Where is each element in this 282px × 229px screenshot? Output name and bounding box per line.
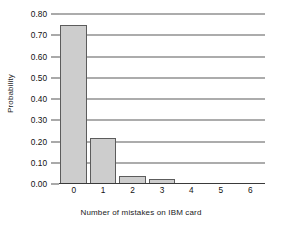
y-tick-label: 0.40 [16, 95, 47, 103]
y-tick-mark [51, 35, 59, 36]
y-axis-tick-labels: 0.000.100.200.300.400.500.600.700.80 [20, 14, 51, 184]
y-tick-label: 0.30 [16, 116, 47, 124]
y-tick-mark [51, 99, 59, 100]
y-tick-label: 0.20 [16, 137, 47, 145]
y-axis-tick-marks [51, 14, 59, 184]
x-tick-label: 0 [71, 186, 76, 194]
bar [90, 138, 116, 184]
y-tick-mark [51, 120, 59, 121]
y-tick-label: 0.50 [16, 74, 47, 82]
y-tick-mark [51, 77, 59, 78]
y-tick-label: 0.60 [16, 52, 47, 60]
x-tick-label: 4 [189, 186, 194, 194]
y-tick-mark [51, 14, 59, 15]
bars-group [59, 14, 265, 184]
y-tick-mark [51, 141, 59, 142]
bar-chart-figure: Probability 0.000.100.200.300.400.500.60… [0, 0, 282, 229]
x-tick-label: 6 [248, 186, 253, 194]
y-tick-mark [51, 56, 59, 57]
x-tick-label: 3 [160, 186, 165, 194]
x-axis-tick-labels: 0123456 [59, 186, 265, 200]
x-axis-line [59, 183, 265, 184]
y-axis-title-label: Probability [6, 73, 15, 112]
x-tick-label: 5 [219, 186, 224, 194]
y-tick-mark [51, 184, 59, 185]
x-axis-title: Number of mistakes on IBM card [0, 208, 282, 217]
y-tick-label: 0.10 [16, 159, 47, 167]
bar [60, 25, 86, 184]
x-tick-label: 2 [130, 186, 135, 194]
y-tick-label: 0.70 [16, 31, 47, 39]
y-tick-mark [51, 162, 59, 163]
y-tick-label: 0.00 [16, 180, 47, 188]
y-tick-label: 0.80 [16, 10, 47, 18]
x-tick-label: 1 [101, 186, 106, 194]
plot-area [59, 14, 265, 184]
